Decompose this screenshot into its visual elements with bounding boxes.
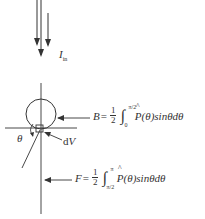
f-symbol: F (75, 172, 82, 184)
integral-sign: ∫ π/2 0 (120, 108, 124, 124)
lower-limit: π/2 (106, 184, 114, 190)
integrand: ^ P(θ)sinθdθ (117, 172, 166, 184)
half-fraction: 1 2 (92, 168, 99, 187)
dv-label: dV (63, 135, 75, 147)
equation-backscatter: B = 1 2 ∫ π/2 0 ^ P(θ)sinθdθ (93, 106, 183, 125)
scatter-direction (22, 130, 40, 168)
lower-limit: 0 (124, 122, 127, 128)
equals-sign: = (101, 110, 107, 122)
equation-forward: F = 1 2 ∫ π π/2 ^ P(θ)sinθdθ (75, 168, 165, 187)
b-symbol: B (93, 110, 100, 122)
integral-sign: ∫ π π/2 (102, 170, 106, 186)
integrand: ^ P(θ)sinθdθ (135, 110, 184, 122)
incident-intensity-label: Iin (59, 48, 67, 62)
intensity-subscript: in (63, 56, 68, 62)
incident-arrows (34, 0, 51, 57)
upper-limit: π (110, 166, 113, 172)
half-fraction: 1 2 (110, 106, 117, 125)
equals-sign: = (83, 172, 89, 184)
theta-label: θ (17, 132, 22, 144)
